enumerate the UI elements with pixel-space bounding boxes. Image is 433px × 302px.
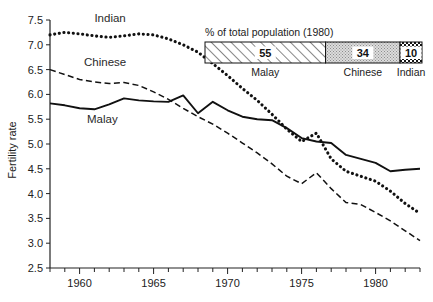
- y-tick-label: 6.5: [28, 64, 43, 76]
- y-tick-label: 6.0: [28, 88, 43, 100]
- fertility-rate-line-chart: 2.53.03.54.04.55.05.56.06.57.07.5 196019…: [0, 0, 433, 302]
- x-tick-label: 1975: [289, 277, 313, 289]
- y-tick-label: 5.5: [28, 113, 43, 125]
- y-axis-title: Fertility rate: [6, 121, 18, 178]
- y-tick-label: 5.0: [28, 138, 43, 150]
- series-label-chinese: Chinese: [84, 56, 126, 68]
- series-label-malay: Malay: [87, 113, 118, 125]
- x-tick-label: 1965: [141, 277, 165, 289]
- y-tick-label: 3.5: [28, 212, 43, 224]
- inset-value-indian: 10: [405, 47, 417, 59]
- y-tick-label: 3.0: [28, 237, 43, 249]
- y-tick-label: 7.0: [28, 39, 43, 51]
- x-tick-label: 1980: [363, 277, 387, 289]
- x-tick-label: 1970: [215, 277, 239, 289]
- series-label-indian: Indian: [94, 12, 125, 24]
- y-tick-label: 7.5: [28, 14, 43, 26]
- inset-label-indian: Indian: [397, 66, 426, 78]
- inset-label-chinese: Chinese: [344, 66, 383, 78]
- inset-value-malay: 55: [259, 47, 271, 59]
- inset-stacked-bar: 553410: [205, 42, 422, 63]
- chart-figure: 2.53.03.54.04.55.05.56.06.57.07.5 196019…: [0, 0, 433, 302]
- y-tick-label: 4.5: [28, 163, 43, 175]
- x-tick-label: 1960: [67, 277, 91, 289]
- inset-title: % of total population (1980): [205, 26, 333, 38]
- inset-label-malay: Malay: [251, 66, 280, 78]
- inset-value-chinese: 34: [357, 47, 370, 59]
- y-tick-label: 4.0: [28, 188, 43, 200]
- y-tick-label: 2.5: [28, 262, 43, 274]
